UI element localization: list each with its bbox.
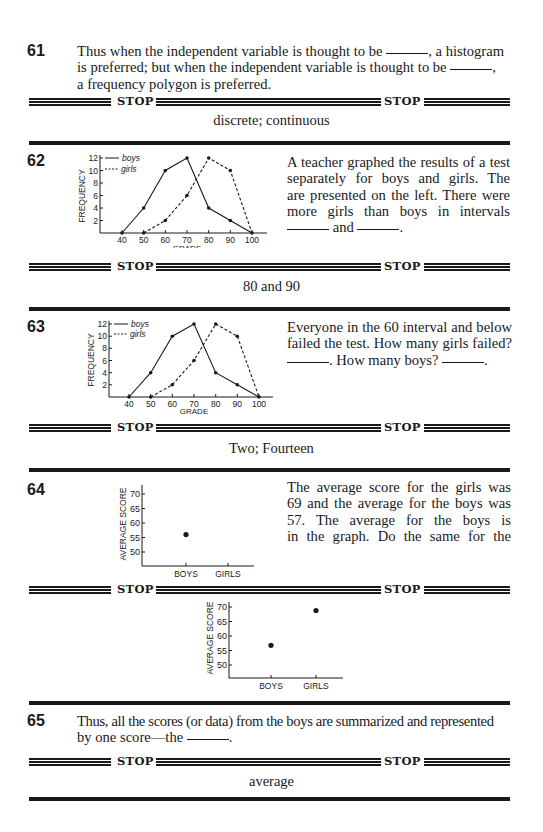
stop-bar-lines [29, 424, 111, 432]
text-line: are presented on the left. There were [287, 187, 510, 203]
stop-bar-lines [29, 98, 111, 106]
stop-bar-lines [29, 586, 111, 594]
text-line: by one score—the . [77, 729, 510, 745]
text-line: 57. The average for the boys is entered [287, 512, 511, 528]
svg-text:10: 10 [89, 166, 99, 176]
frame-number: 62 [27, 152, 45, 170]
frame-number: 64 [27, 481, 45, 499]
stop-label: STOP [117, 754, 154, 768]
svg-text:60: 60 [130, 518, 140, 528]
stop-bar-lines [424, 586, 510, 594]
frame-62-text: A teacher graphed the results of a test … [287, 154, 510, 252]
stop-bar-lines [156, 263, 381, 271]
frame-number: 65 [27, 712, 45, 730]
svg-text:6: 6 [93, 191, 98, 201]
stop-label: STOP [117, 259, 154, 273]
stop-bar-lines [29, 263, 111, 271]
stop-bar: STOP STOP [29, 262, 510, 272]
svg-text:GIRLS: GIRLS [215, 569, 241, 579]
svg-text:50: 50 [217, 660, 227, 670]
stop-bar: STOP STOP [29, 585, 510, 595]
stop-bar: STOP STOP [29, 757, 510, 767]
stop-label: STOP [384, 94, 421, 108]
svg-text:GRADE: GRADE [173, 244, 201, 248]
section-divider [29, 307, 510, 311]
svg-text:GRADE: GRADE [180, 407, 208, 414]
answer-blank[interactable] [287, 228, 329, 230]
section-divider [29, 797, 510, 801]
stop-bar: STOP STOP [29, 423, 510, 433]
svg-text:BOYS: BOYS [259, 681, 283, 691]
text-line: 69 and the average for the boys was [287, 495, 511, 511]
answer-text: 80 and 90 [0, 278, 543, 295]
text-line: Everyone in the 60 interval and below [287, 319, 512, 335]
text-line: . How many boys? . [287, 352, 512, 368]
frame-64-text: The average score for the girls was 69 a… [287, 479, 511, 544]
svg-text:boys: boys [122, 153, 141, 163]
svg-text:55: 55 [217, 646, 227, 656]
answer-text: Two; Fourteen [0, 440, 543, 457]
svg-text:40: 40 [124, 399, 134, 409]
stop-label: STOP [384, 582, 421, 596]
stop-bar-lines [156, 98, 381, 106]
frame-61-text: Thus when the independent variable is th… [77, 43, 510, 92]
average-score-answer-chart: 7065605550 AVERAGE SCORE BOYSGIRLS [190, 600, 350, 692]
answer-text: average [0, 773, 543, 790]
svg-text:60: 60 [217, 631, 227, 641]
text-line: failed the test. How many girls failed? [287, 335, 512, 351]
svg-text:50: 50 [130, 547, 140, 557]
svg-text:55: 55 [130, 533, 140, 543]
stop-bar-lines [424, 758, 510, 766]
frame-63-text: Everyone in the 60 interval and below fa… [287, 319, 512, 368]
stop-bar-lines [424, 263, 510, 271]
text-line: is preferred; but when the independent v… [77, 59, 510, 75]
answer-blank[interactable] [357, 228, 399, 230]
frame-65-text: Thus, all the scores (or data) from the … [77, 713, 510, 746]
stop-label: STOP [117, 420, 154, 434]
svg-text:8: 8 [93, 178, 98, 188]
answer-text: discrete; continuous [0, 112, 543, 129]
stop-bar-lines [29, 758, 111, 766]
svg-text:2: 2 [93, 216, 98, 226]
text-line: The average score for the girls was [287, 479, 511, 495]
svg-text:girls: girls [130, 329, 146, 339]
answer-blank[interactable] [287, 361, 329, 363]
text-line: more girls than boys in intervals [287, 203, 510, 219]
svg-text:10: 10 [98, 331, 108, 341]
average-score-chart: 7065605550 AVERAGE SCORE BOYSGIRLS [105, 484, 265, 580]
svg-text:40: 40 [117, 235, 127, 245]
svg-text:BOYS: BOYS [174, 569, 198, 579]
svg-text:70: 70 [217, 602, 227, 612]
svg-text:4: 4 [93, 203, 98, 213]
svg-text:girls: girls [121, 164, 137, 174]
svg-text:boys: boys [131, 319, 150, 329]
svg-text:FREQUENCY: FREQUENCY [86, 333, 96, 387]
answer-blank[interactable] [450, 68, 492, 70]
stop-label: STOP [384, 420, 421, 434]
text-line: and . [287, 219, 510, 235]
frame-number: 63 [27, 318, 45, 336]
text-line: Thus, all the scores (or data) from the … [77, 713, 510, 729]
svg-text:8: 8 [102, 343, 107, 353]
svg-text:60: 60 [161, 235, 171, 245]
stop-label: STOP [117, 582, 154, 596]
svg-text:4: 4 [102, 368, 107, 378]
frame-number: 61 [27, 42, 45, 60]
svg-text:12: 12 [89, 153, 99, 163]
answer-blank[interactable] [442, 361, 484, 363]
section-divider [29, 468, 510, 472]
svg-text:80: 80 [204, 235, 214, 245]
stop-bar-lines [156, 758, 381, 766]
stop-bar-lines [424, 424, 510, 432]
text-line: a frequency polygon is preferred. [77, 76, 510, 92]
answer-blank[interactable] [386, 52, 428, 54]
stop-bar-lines [156, 424, 381, 432]
frequency-polygon-chart: 12108 642 FREQUENCY 40506070 8090100 GRA… [60, 148, 285, 248]
stop-label: STOP [384, 259, 421, 273]
svg-text:AVERAGE SCORE: AVERAGE SCORE [118, 487, 128, 560]
svg-text:50: 50 [146, 399, 156, 409]
svg-text:70: 70 [130, 489, 140, 499]
svg-text:FREQUENCY: FREQUENCY [77, 169, 87, 223]
frequency-polygon-chart: 12108 642 FREQUENCY 40506070 8090100 GRA… [65, 314, 290, 414]
answer-blank[interactable] [187, 738, 229, 740]
